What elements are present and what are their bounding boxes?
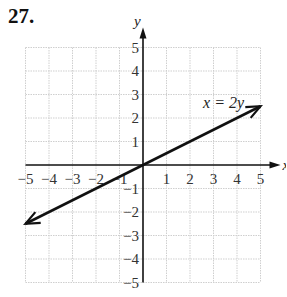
x-tick-label: 4 xyxy=(233,171,241,187)
y-axis-arrow-icon xyxy=(140,28,147,39)
y-tick-label: −5 xyxy=(123,275,139,291)
x-tick-label: −5 xyxy=(18,171,34,187)
x-tick-label: −3 xyxy=(65,171,81,187)
x-tick-label: 3 xyxy=(210,171,218,187)
y-tick-label: 1 xyxy=(132,134,140,150)
x-tick-label: 2 xyxy=(186,171,194,187)
y-tick-label: 2 xyxy=(132,110,140,126)
equation-label: x = 2y xyxy=(202,94,245,112)
axes: xy xyxy=(26,13,287,283)
x-axis-label: x xyxy=(282,157,287,173)
equation-label: x = 2y xyxy=(202,94,245,112)
coordinate-plane: xy −5−4−3−2−11234554321−1−2−3−4−5 x = 2y xyxy=(0,0,286,297)
y-axis-label: y xyxy=(132,13,141,29)
y-tick-label: −3 xyxy=(123,228,139,244)
x-axis-arrow-icon xyxy=(270,162,281,169)
y-tick-label: 3 xyxy=(132,87,140,103)
y-tick-label: −4 xyxy=(123,251,139,267)
x-tick-label: −4 xyxy=(41,171,57,187)
y-tick-label: 5 xyxy=(132,40,140,56)
y-tick-label: −1 xyxy=(123,181,139,197)
x-tick-label: 5 xyxy=(257,171,265,187)
y-tick-label: 4 xyxy=(132,63,140,79)
x-tick-label: 1 xyxy=(163,171,171,187)
y-tick-label: −2 xyxy=(123,204,139,220)
